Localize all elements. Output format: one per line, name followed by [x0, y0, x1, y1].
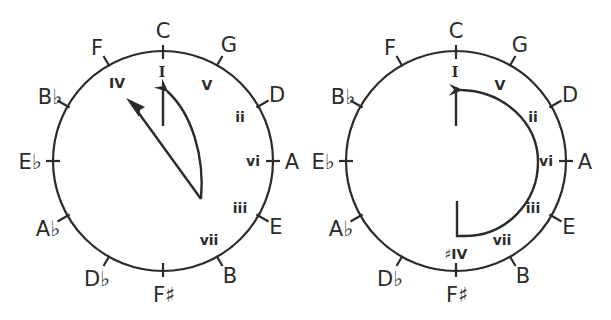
- progression-arc-arrow: [167, 91, 202, 199]
- note-label-e: E: [562, 215, 575, 239]
- note-label-f: F: [91, 36, 103, 60]
- note-label-f-sharp: F♯: [446, 283, 468, 307]
- note-label-a: A: [578, 150, 593, 174]
- circle-of-fifths-left: C G D A E B F♯ D♭ A♭ E♭ B♭ F I V ii vi i…: [18, 19, 299, 307]
- note-label-b-flat: B♭: [331, 85, 355, 109]
- note-label-e-flat: E♭: [311, 150, 334, 174]
- numeral-V: V: [202, 77, 213, 93]
- numeral-vi: vi: [246, 153, 260, 169]
- numeral-I: I: [159, 64, 166, 80]
- note-label-b-flat: B♭: [38, 85, 62, 109]
- numeral-IV: IV: [109, 75, 125, 91]
- note-label-f: F: [384, 36, 396, 60]
- note-label-f-sharp: F♯: [153, 283, 175, 307]
- note-label-e: E: [269, 215, 282, 239]
- fifths-ring: [346, 51, 566, 271]
- note-label-g: G: [512, 33, 528, 57]
- note-label-b: B: [223, 264, 237, 288]
- note-label-b: B: [516, 264, 530, 288]
- numeral-iii: iii: [233, 200, 247, 216]
- numeral-I: I: [452, 64, 459, 80]
- note-label-a-flat: A♭: [36, 217, 60, 241]
- fifths-ring: [53, 51, 273, 271]
- arrowhead-icon: [126, 98, 145, 117]
- note-label-g: G: [221, 33, 237, 57]
- numeral-V: V: [495, 77, 506, 93]
- numeral-sharp-IV: ♯IV: [445, 246, 468, 262]
- note-label-a-flat: A♭: [329, 217, 353, 241]
- numeral-vi: vi: [539, 153, 553, 169]
- circle-of-fifths-right: C G D A E B F♯ D♭ A♭ E♭ B♭ F I V ii vi i…: [311, 19, 592, 307]
- numeral-ii: ii: [235, 109, 245, 125]
- note-label-c: C: [449, 19, 464, 43]
- note-label-d-flat: D♭: [377, 267, 403, 291]
- note-label-e-flat: E♭: [18, 150, 41, 174]
- numeral-vii: vii: [200, 232, 219, 248]
- note-label-d-flat: D♭: [84, 267, 110, 291]
- numeral-iii: iii: [526, 200, 540, 216]
- note-label-c: C: [156, 19, 171, 43]
- note-label-d: D: [269, 83, 285, 107]
- numeral-ii: ii: [528, 109, 538, 125]
- note-label-d: D: [562, 83, 578, 107]
- note-label-a: A: [285, 150, 300, 174]
- numeral-vii: vii: [493, 232, 512, 248]
